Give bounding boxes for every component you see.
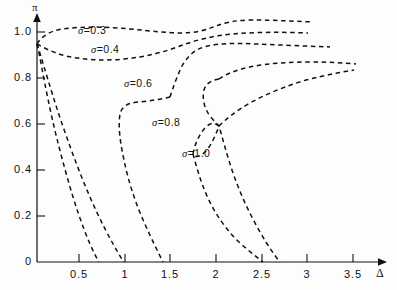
x-tick-label-1: 1 [110, 268, 140, 280]
x-tick-label-1.5: 1.5 [155, 268, 185, 280]
x-tick-label-2.5: 2.5 [247, 268, 277, 280]
curve-label-sigma-0.3-value: =0.3 [84, 24, 107, 36]
x-tick-label-2: 2 [201, 268, 231, 280]
curve-label-sigma-0.4: σ=0.4 [91, 43, 119, 55]
y-axis-arrow-icon [33, 13, 41, 22]
curve-label-sigma-0.8-value: =0.8 [158, 116, 181, 128]
curve-sigma-1.0-upper [219, 70, 354, 126]
y-tick-label-0.4: 0.4 [4, 163, 32, 175]
curve-label-sigma-0.6-value: =0.6 [130, 77, 153, 89]
x-axis-arrow-icon [378, 258, 387, 266]
figure-container: 1.0 0.8 0.6 0.4 0.2 0 0.5 1 1.5 2 2.5 3 … [0, 0, 397, 290]
x-tick-label-0.5: 0.5 [64, 268, 94, 280]
x-tick-label-3.5: 3.5 [338, 268, 368, 280]
curve-sigma-1.0-lower [193, 154, 263, 262]
curve-label-sigma-0.4-value: =0.4 [97, 43, 120, 55]
curves-group [37, 20, 356, 262]
curve-sigma-0.6-upper [170, 43, 330, 97]
curve-sigma-0.4-upper [37, 32, 308, 60]
y-axis-name: π [32, 1, 38, 13]
curve-label-sigma-0.8: σ=0.8 [152, 116, 180, 128]
curve-label-sigma-1.0: σ=1.0 [182, 147, 210, 159]
curve-sigma-0.8-lower [203, 79, 280, 262]
y-tick-label-1.0: 1.0 [4, 25, 32, 37]
y-tick-label-0.2: 0.2 [4, 209, 32, 221]
y-tick-label-0.6: 0.6 [4, 117, 32, 129]
y-tick-label-0.8: 0.8 [4, 71, 32, 83]
curve-label-sigma-0.6: σ=0.6 [124, 77, 152, 89]
x-tick-label-3: 3 [292, 268, 322, 280]
curve-sigma-0.8-upper [219, 62, 356, 79]
y-tick-label-0: 0 [4, 255, 32, 267]
curve-label-sigma-0.3: σ=0.3 [78, 24, 106, 36]
x-axis-name: Δ [376, 266, 384, 281]
plot-svg [0, 0, 397, 290]
axes-group [33, 13, 387, 266]
curve-label-sigma-1.0-value: =1.0 [188, 147, 211, 159]
curve-sigma-0.4-lower [37, 44, 124, 262]
